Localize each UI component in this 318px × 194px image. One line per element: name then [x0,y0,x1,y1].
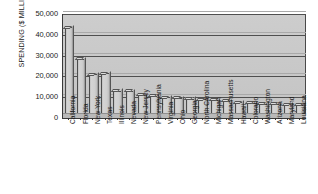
x-tick-mark [129,118,130,120]
gridline-depth [63,11,306,12]
x-tick-label: Texas [107,107,114,124]
x-tick-mark [92,118,93,120]
y-tick-label: 0 [54,114,58,121]
x-tick-mark [202,118,203,120]
bar-top-face [75,57,84,60]
bar-top-face [111,89,120,92]
x-tick-label: Virginia [168,102,175,124]
x-tick-mark [117,118,118,120]
x-tick-mark [226,118,227,120]
bar-top-face [87,73,96,76]
x-tick-mark [165,118,166,120]
x-tick-label: Massachusetts [228,79,235,124]
x-tick-label: Florida [83,103,90,124]
x-tick-mark [299,118,300,120]
x-tick-mark [275,118,276,120]
x-tick-label: Pennsylvania [156,84,163,124]
x-tick-label: California [70,96,77,124]
x-tick-mark [250,118,251,120]
x-tick-label: Maryland [289,96,296,124]
x-tick-mark [214,118,215,120]
x-tick-label: Georgia [192,100,199,124]
x-tick-mark [287,118,288,120]
y-tick-label: 30,000 [35,52,58,59]
x-tick-label: Arizona [277,101,284,124]
x-tick-mark [262,118,263,120]
bar-top-face [99,72,108,75]
y-tick-label: 20,000 [35,72,58,79]
y-tick-label: 10,000 [35,93,58,100]
x-tick-label: Ohio [180,110,187,124]
x-tick-mark [238,118,239,120]
x-tick-label: Illinois [119,105,126,124]
x-tick-mark [105,118,106,120]
y-tick-label: 50,000 [35,10,58,17]
x-tick-mark [190,118,191,120]
bar-chart: SPENDING ($ MILLIONS) 010,00020,00030,00… [0,0,318,194]
bar-top-face [63,26,72,29]
bar-top-face [172,96,181,99]
x-tick-mark [177,118,178,120]
x-axis-tick-labels: CaliforniaFloridaNew YorkTexasIllinoisNe… [62,120,305,194]
x-tick-label: Michigan [216,97,223,124]
x-tick-label: North Carolina [204,81,211,124]
x-tick-label: Hawaii [241,104,248,124]
x-tick-label: Nevada [131,101,138,124]
x-tick-mark [68,118,69,120]
x-tick-mark [141,118,142,120]
x-tick-label: Washington [265,89,272,124]
x-tick-label: Colorado [253,97,260,124]
x-tick-label: New Jersey [143,89,150,124]
bar-top-face [124,89,133,92]
x-tick-label: Louisiana [301,95,308,124]
x-tick-mark [153,118,154,120]
y-axis-tick-labels: 010,00020,00030,00040,00050,000 [20,0,58,194]
y-tick-label: 40,000 [35,31,58,38]
x-tick-mark [80,118,81,120]
x-tick-label: New York [95,96,102,124]
